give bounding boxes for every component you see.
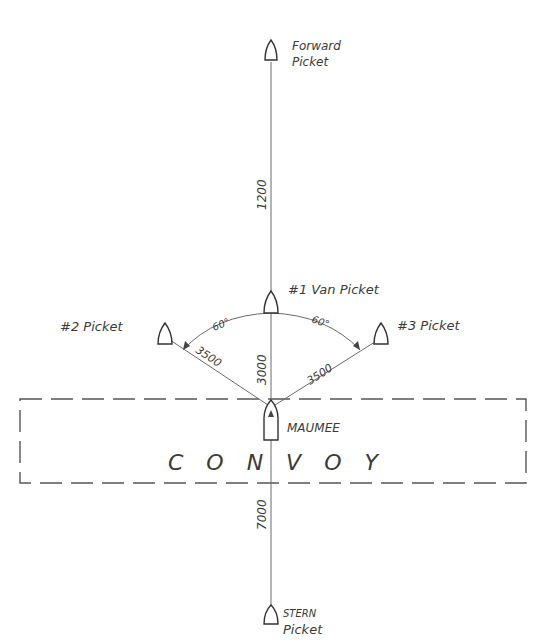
angle-right-label: 60° <box>310 314 330 330</box>
distance-3000: 3000 <box>255 354 269 385</box>
distance-3500-right: 3500 <box>305 361 336 387</box>
forward-picket-ship-icon <box>265 40 277 60</box>
stern-picket-label-1: STERN <box>283 608 317 619</box>
van-picket-label: #1 Van Picket <box>288 282 380 297</box>
maumee-label: MAUMEE <box>287 421 340 435</box>
van-picket-ship-icon <box>264 291 278 313</box>
angle-left-label: 60° <box>211 316 232 333</box>
convoy-label: C O N V O Y <box>168 450 386 475</box>
stern-picket-label-2: Picket <box>283 622 323 637</box>
maumee-ship-icon <box>264 400 278 440</box>
picket-2-ship-icon <box>158 323 172 344</box>
arc-arrow-right <box>353 341 360 350</box>
picket-2-label: #2 Picket <box>60 319 123 334</box>
picket-formation-diagram: C O N V O Y Forward Picket 1200 #1 Van P… <box>0 0 549 644</box>
picket-3-label: #3 Picket <box>397 318 460 333</box>
line-to-picket-2 <box>170 340 268 405</box>
stern-picket-ship-icon <box>264 605 278 624</box>
forward-picket-label-2: Picket <box>292 55 330 69</box>
arc-arrow-left <box>183 341 190 350</box>
forward-picket-label-1: Forward <box>292 39 341 53</box>
distance-1200: 1200 <box>255 179 269 210</box>
distance-7000: 7000 <box>255 499 269 530</box>
picket-3-ship-icon <box>374 323 388 344</box>
